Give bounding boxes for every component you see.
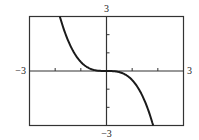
y-max-label: 3 — [104, 3, 109, 14]
y-min-label: −3 — [101, 128, 112, 139]
graph: 3 −3 −3 3 — [0, 0, 199, 140]
x-min-label: −3 — [15, 65, 26, 76]
x-max-label: 3 — [187, 65, 192, 76]
